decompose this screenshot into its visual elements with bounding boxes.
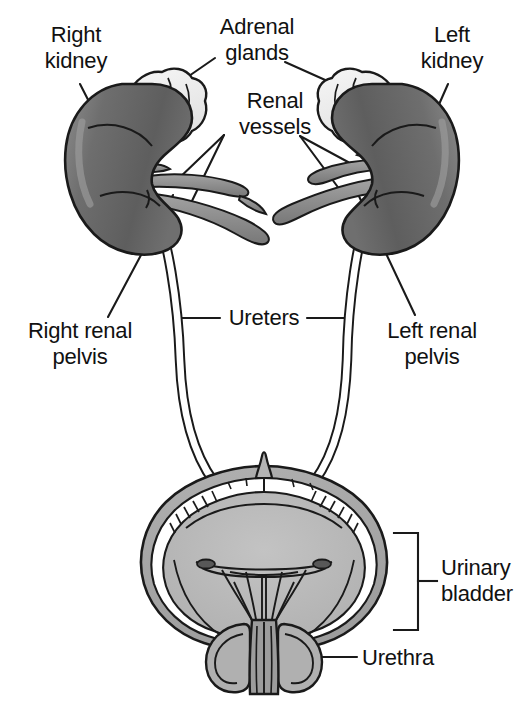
label-adrenal-glands: Adrenal glands: [196, 14, 318, 66]
label-urethra: Urethra: [362, 645, 466, 671]
urinary-system-figure: Right kidney Adrenal glands Left kidney …: [0, 0, 527, 703]
renal-vessel-right-upper: [146, 174, 248, 196]
ureteric-orifice-right: [197, 560, 215, 569]
label-left-renal-pelvis: Left renal pelvis: [368, 318, 496, 370]
urethra-group: [206, 620, 322, 694]
ureteric-orifice-left: [313, 560, 331, 569]
label-renal-vessels: Renal vessels: [222, 88, 328, 140]
label-urinary-bladder: Urinary bladder: [441, 555, 527, 607]
label-ureters: Ureters: [222, 305, 306, 331]
renal-vessel-right-tail: [239, 196, 266, 214]
right-kidney: [65, 84, 192, 255]
leader-renal-vessels-r2: [190, 135, 224, 205]
bracket-urinary-bladder: [394, 533, 437, 630]
label-right-kidney: Right kidney: [24, 22, 128, 74]
right-kidney-group: [65, 84, 192, 255]
label-right-renal-pelvis: Right renal pelvis: [16, 318, 144, 370]
label-left-kidney: Left kidney: [400, 22, 504, 74]
